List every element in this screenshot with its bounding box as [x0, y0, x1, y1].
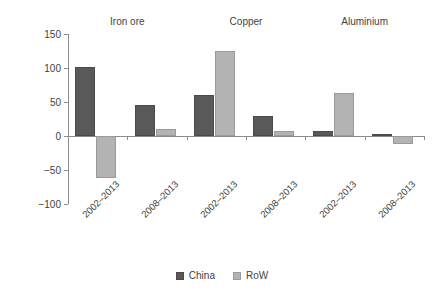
legend-item-row: RoW — [233, 270, 268, 281]
x-axis-tick — [187, 136, 188, 140]
x-axis-tick — [246, 136, 247, 140]
bar-row-4 — [334, 93, 354, 136]
legend-label-china: China — [189, 270, 215, 281]
x-axis-tick — [424, 136, 425, 140]
bar-row-0 — [96, 136, 116, 178]
bar-china-5 — [372, 134, 392, 136]
y-axis-tick-label: 150 — [44, 29, 61, 40]
bar-china-4 — [313, 131, 333, 136]
bar-china-0 — [75, 67, 95, 136]
y-axis-tick — [64, 170, 68, 171]
legend-item-china: China — [176, 270, 215, 281]
y-axis-tick — [64, 136, 68, 137]
legend: China RoW — [0, 270, 444, 281]
y-axis-tick — [64, 204, 68, 205]
bar-china-2 — [194, 95, 214, 136]
legend-swatch-icon-china — [176, 272, 184, 280]
group-title-iron-ore: Iron ore — [110, 16, 144, 27]
y-axis-tick-label: −50 — [44, 165, 61, 176]
bar-row-1 — [156, 129, 176, 136]
bar-china-3 — [253, 116, 273, 136]
x-axis-tick — [365, 136, 366, 140]
y-axis-line — [68, 34, 69, 204]
y-axis-tick — [64, 68, 68, 69]
y-axis-tick — [64, 102, 68, 103]
bar-chart: Percentage change 150100500−50−100 China… — [0, 0, 444, 294]
bar-row-5 — [393, 136, 413, 144]
legend-swatch-icon-row — [233, 272, 241, 280]
y-axis-tick — [64, 34, 68, 35]
group-title-aluminium: Aluminium — [341, 16, 388, 27]
y-axis-tick-label: 50 — [50, 97, 61, 108]
plot-area: 150100500−50−100 — [68, 34, 424, 204]
y-axis-tick-label: −100 — [38, 199, 61, 210]
bar-row-2 — [215, 51, 235, 136]
legend-label-row: RoW — [246, 270, 268, 281]
y-axis-tick-label: 100 — [44, 63, 61, 74]
x-axis-tick — [305, 136, 306, 140]
bar-china-1 — [135, 105, 155, 136]
group-title-copper: Copper — [230, 16, 263, 27]
x-axis-tick — [127, 136, 128, 140]
y-axis-tick-label: 0 — [55, 131, 61, 142]
bar-row-3 — [274, 131, 294, 136]
